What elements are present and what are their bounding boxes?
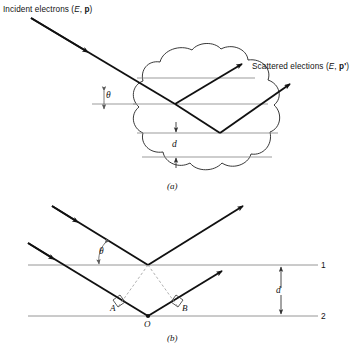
- point-A-label: A: [110, 304, 116, 313]
- panel-a-caption: (a): [167, 182, 178, 191]
- scattered-ray-b-upper: [148, 206, 243, 265]
- point-O-label: O: [144, 320, 151, 329]
- theta-label-b: θ: [99, 247, 104, 257]
- incident-ray-a-lower-leg: [175, 104, 220, 133]
- plane-2-label: 2: [321, 312, 326, 320]
- construction-line-to-B: [148, 265, 178, 307]
- scattered-label-prefix: Scattered elections (: [252, 62, 329, 71]
- figure-canvas: [0, 0, 361, 354]
- construction-line-to-A: [118, 265, 148, 307]
- plane-1-label: 1: [321, 261, 326, 269]
- theta-label-a: θ: [106, 91, 111, 101]
- scattered-electrons-label: Scattered elections (E, p'): [252, 63, 349, 71]
- point-B-label: B: [182, 304, 188, 313]
- scattered-ray-a-lower: [220, 84, 290, 133]
- panel-b-group: [28, 206, 318, 318]
- incident-label-prefix: Incident electrons (: [3, 5, 74, 14]
- incident-label-suffix: ): [90, 5, 93, 14]
- scattered-label-suffix: ): [346, 62, 349, 71]
- panel-b-caption: (b): [167, 334, 178, 343]
- panel-a-group: [31, 18, 290, 170]
- d-label-b: d: [276, 286, 281, 296]
- scattered-ray-a-upper: [175, 64, 242, 104]
- point-O-marker: [146, 314, 150, 318]
- d-label-a: d: [172, 140, 177, 150]
- incident-electrons-label: Incident electrons (E, p): [3, 6, 92, 14]
- incident-ray-b-upper-arrowhead: [52, 206, 76, 221]
- incident-ray-b-lower-arrowhead: [28, 243, 52, 258]
- figure-root: Incident electrons (E, p) Scattered elec…: [0, 0, 361, 354]
- incident-ray-a-arrowhead: [31, 18, 86, 51]
